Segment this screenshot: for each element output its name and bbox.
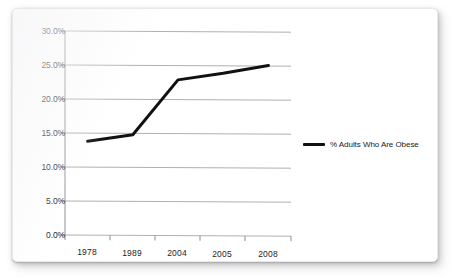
x-tick-label-1978: 1978 — [77, 247, 97, 257]
chart-card: 30.0% 25.0% 20.0% 15.0% 10.0% 5.0% 0.0% … — [12, 8, 438, 262]
x-tick-label-2008: 2008 — [258, 249, 278, 259]
line-chart: 30.0% 25.0% 20.0% 15.0% 10.0% 5.0% 0.0% … — [13, 9, 437, 261]
x-axis-labels: 1978 1989 2004 2005 2008 — [13, 9, 437, 261]
x-tick-label-2004: 2004 — [167, 248, 187, 258]
x-tick-label-1989: 1989 — [122, 248, 142, 258]
legend-line-swatch — [303, 143, 325, 147]
x-tick-label-2005: 2005 — [212, 249, 232, 259]
chart-legend: % Adults Who Are Obese — [303, 140, 419, 149]
legend-label-adults-obese: % Adults Who Are Obese — [330, 140, 419, 149]
